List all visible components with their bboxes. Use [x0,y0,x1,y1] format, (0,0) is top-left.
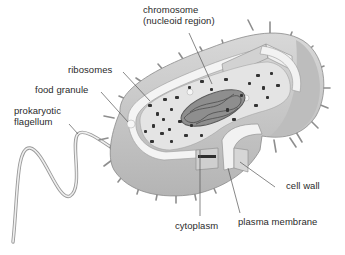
label-cell-wall: cell wall [286,181,320,192]
label-ribosomes: ribosomes [68,65,112,76]
label-flagellum: prokaryotic flagellum [14,106,61,127]
leader-flagellum [69,124,78,134]
label-cytoplasm: cytoplasm [175,221,218,232]
label-plasma-membrane: plasma membrane [238,217,317,228]
label-food-granule: food granule [35,85,88,96]
flagellum [13,132,127,242]
leader-cell-wall [240,162,275,187]
label-chromosome: chromosome (nucleoid region) [143,5,215,26]
prokaryotic-cell-diagram: chromosome (nucleoid region) ribosomes f… [0,0,345,255]
